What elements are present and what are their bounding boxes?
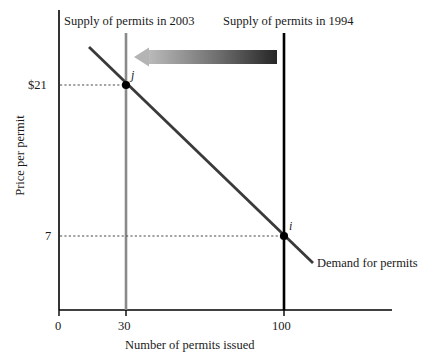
point-label-i: i (289, 220, 292, 232)
xtick-label-100: 100 (272, 320, 291, 333)
ytick-label-21: $21 (28, 79, 47, 92)
shift-arrow-shaft (147, 50, 277, 64)
point-label-j: j (131, 69, 134, 81)
supply-demand-chart: Supply of permits in 2003 Supply of perm… (0, 0, 448, 360)
point-marker-i (280, 232, 288, 240)
shift-arrow-head (134, 48, 149, 67)
demand-line (89, 47, 313, 263)
supply-2003-label: Supply of permits in 2003 (64, 15, 195, 28)
y-axis-title: Price per permit (13, 108, 28, 204)
ytick-label-7: 7 (45, 230, 51, 243)
xtick-label-30: 30 (118, 320, 131, 333)
demand-label: Demand for permits (317, 257, 418, 270)
point-marker-j (122, 81, 130, 89)
xtick-label-0: 0 (55, 320, 61, 333)
supply-1994-label: Supply of permits in 1994 (223, 15, 354, 28)
chart-canvas (0, 0, 448, 360)
x-axis-title: Number of permits issued (125, 339, 255, 352)
